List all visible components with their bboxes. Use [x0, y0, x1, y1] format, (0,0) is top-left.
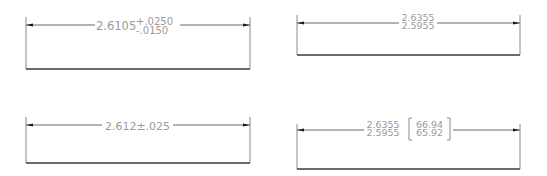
arrowhead-right-icon: [243, 124, 250, 127]
panel-limit-dimensioning: 2.6355 2.5955: [297, 12, 520, 55]
arrowhead-right-icon: [513, 129, 520, 132]
lower-deviation: -.0150: [136, 25, 168, 36]
arrowhead-left-icon: [26, 24, 33, 27]
panel-symmetrical-tolerance: 2.612±.025: [26, 117, 250, 163]
nominal-value: 2.6105: [96, 19, 136, 33]
alt-units-bracket-right-icon: [447, 118, 450, 140]
arrowhead-left-icon: [297, 129, 304, 132]
arrowhead-left-icon: [297, 22, 304, 25]
arrowhead-right-icon: [243, 24, 250, 27]
arrowhead-left-icon: [26, 124, 33, 127]
alt-lower-limit: 65.92: [416, 127, 443, 138]
lower-limit: 2.5955: [366, 127, 399, 138]
panel-alternate-units: 2.6355 2.5955 66.94 65.92: [297, 118, 520, 169]
alt-units-bracket-left-icon: [409, 118, 412, 140]
panel-deviation-tolerance: 2.6105 +.0250 -.0150: [26, 16, 250, 69]
tolerance-dimensions-drawing: 2.6105 +.0250 -.0150 2.6355 2.5955 2.612…: [0, 0, 547, 176]
lower-limit: 2.5955: [401, 20, 434, 31]
symmetrical-tolerance-value: 2.612±.025: [105, 120, 170, 133]
arrowhead-right-icon: [513, 22, 520, 25]
